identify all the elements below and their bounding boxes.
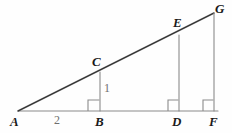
vertex-label-B: B [95, 115, 104, 128]
right-angle-at-B-mark [88, 100, 99, 111]
geometry-figure: A B C D E F G 2 1 [0, 0, 232, 133]
right-angle-at-F-mark [203, 100, 213, 111]
right-angle-at-D-mark [168, 100, 178, 111]
ray-AG-hypotenuse [18, 13, 214, 111]
vertex-label-F: F [209, 115, 218, 128]
figure-canvas [0, 0, 232, 133]
measure-label-BC: 1 [104, 82, 110, 94]
vertex-label-A: A [10, 115, 19, 128]
vertex-label-G: G [215, 2, 224, 15]
vertex-label-D: D [172, 115, 181, 128]
vertex-label-C: C [92, 55, 101, 68]
measure-label-AB: 2 [54, 114, 60, 126]
vertex-label-E: E [173, 16, 182, 29]
